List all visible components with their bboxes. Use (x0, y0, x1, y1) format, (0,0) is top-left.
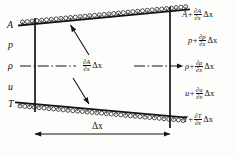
right-label-velocity: u+∂u∂xΔx (185, 87, 214, 102)
top-wall (19, 5, 189, 26)
right-label-area-denominator: ∂x (194, 15, 202, 22)
left-label-pressure: p (8, 40, 13, 50)
right-label-temperature-fraction: ∂T∂x (194, 113, 202, 128)
center-label-delta: Δx (91, 60, 102, 70)
figure-linework (0, 0, 237, 156)
right-label-pressure-fraction: ∂p∂x (199, 34, 206, 49)
right-label-temperature-delta: Δx (202, 114, 213, 124)
right-label-pressure-delta: Δx (207, 35, 218, 45)
leader-arrow-top (71, 25, 90, 55)
right-label-velocity-denominator: ∂x (196, 94, 203, 101)
left-label-area: A (7, 20, 13, 30)
right-label-velocity-fraction: ∂u∂x (196, 87, 203, 102)
right-label-area-delta: Δx (202, 9, 213, 19)
left-label-temperature: T (8, 99, 14, 109)
right-label-density-denominator: ∂x (195, 67, 202, 74)
center-label-area-change: ∂A∂xΔx (82, 59, 102, 74)
right-label-area: A+∂A∂xΔx (182, 8, 213, 23)
center-label-fraction: ∂A∂x (83, 59, 91, 74)
bottom-wall (16, 103, 186, 123)
leader-arrow-bottom (73, 78, 89, 104)
right-label-density-operator: + (189, 61, 195, 71)
right-label-temperature-denominator: ∂x (194, 120, 202, 127)
dimension-label-delta-x: Δx (92, 122, 103, 132)
left-label-density: ρ (8, 61, 13, 71)
right-label-velocity-operator: + (189, 88, 195, 98)
right-label-area-fraction: ∂A∂x (194, 8, 202, 23)
right-label-pressure: p+∂p∂xΔx (188, 34, 217, 49)
right-label-density-fraction: ∂ρ∂x (195, 60, 202, 75)
right-label-density: ρ+∂ρ∂xΔx (185, 60, 214, 75)
right-label-temperature-operator: + (188, 114, 194, 124)
right-label-pressure-operator: + (192, 35, 198, 45)
right-label-density-delta: Δx (203, 61, 214, 71)
right-label-temperature: T+∂T∂xΔx (183, 113, 213, 128)
center-label-denominator: ∂x (83, 66, 91, 73)
left-label-velocity: u (8, 82, 13, 92)
right-label-area-operator: + (187, 9, 193, 19)
right-label-pressure-denominator: ∂x (199, 41, 206, 48)
duct-control-volume-figure: A p ρ u T A+∂A∂xΔx p+∂p∂xΔx ρ+∂ρ∂xΔx u+∂… (0, 0, 237, 156)
right-label-velocity-delta: Δx (204, 88, 215, 98)
